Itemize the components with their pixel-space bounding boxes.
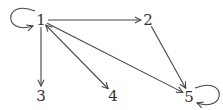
node-3: 3 [36, 87, 46, 105]
edge-1-to-1 [11, 8, 35, 27]
edge-1-to-5 [47, 23, 183, 92]
edge-5-to-5 [195, 85, 219, 104]
node-4: 4 [108, 87, 118, 105]
graph-diagram: 12345 [0, 0, 223, 110]
edge-1-to-4 [46, 25, 108, 89]
nodes: 12345 [36, 11, 194, 106]
node-2: 2 [143, 11, 153, 29]
node-5: 5 [184, 88, 194, 106]
node-1: 1 [36, 11, 46, 29]
